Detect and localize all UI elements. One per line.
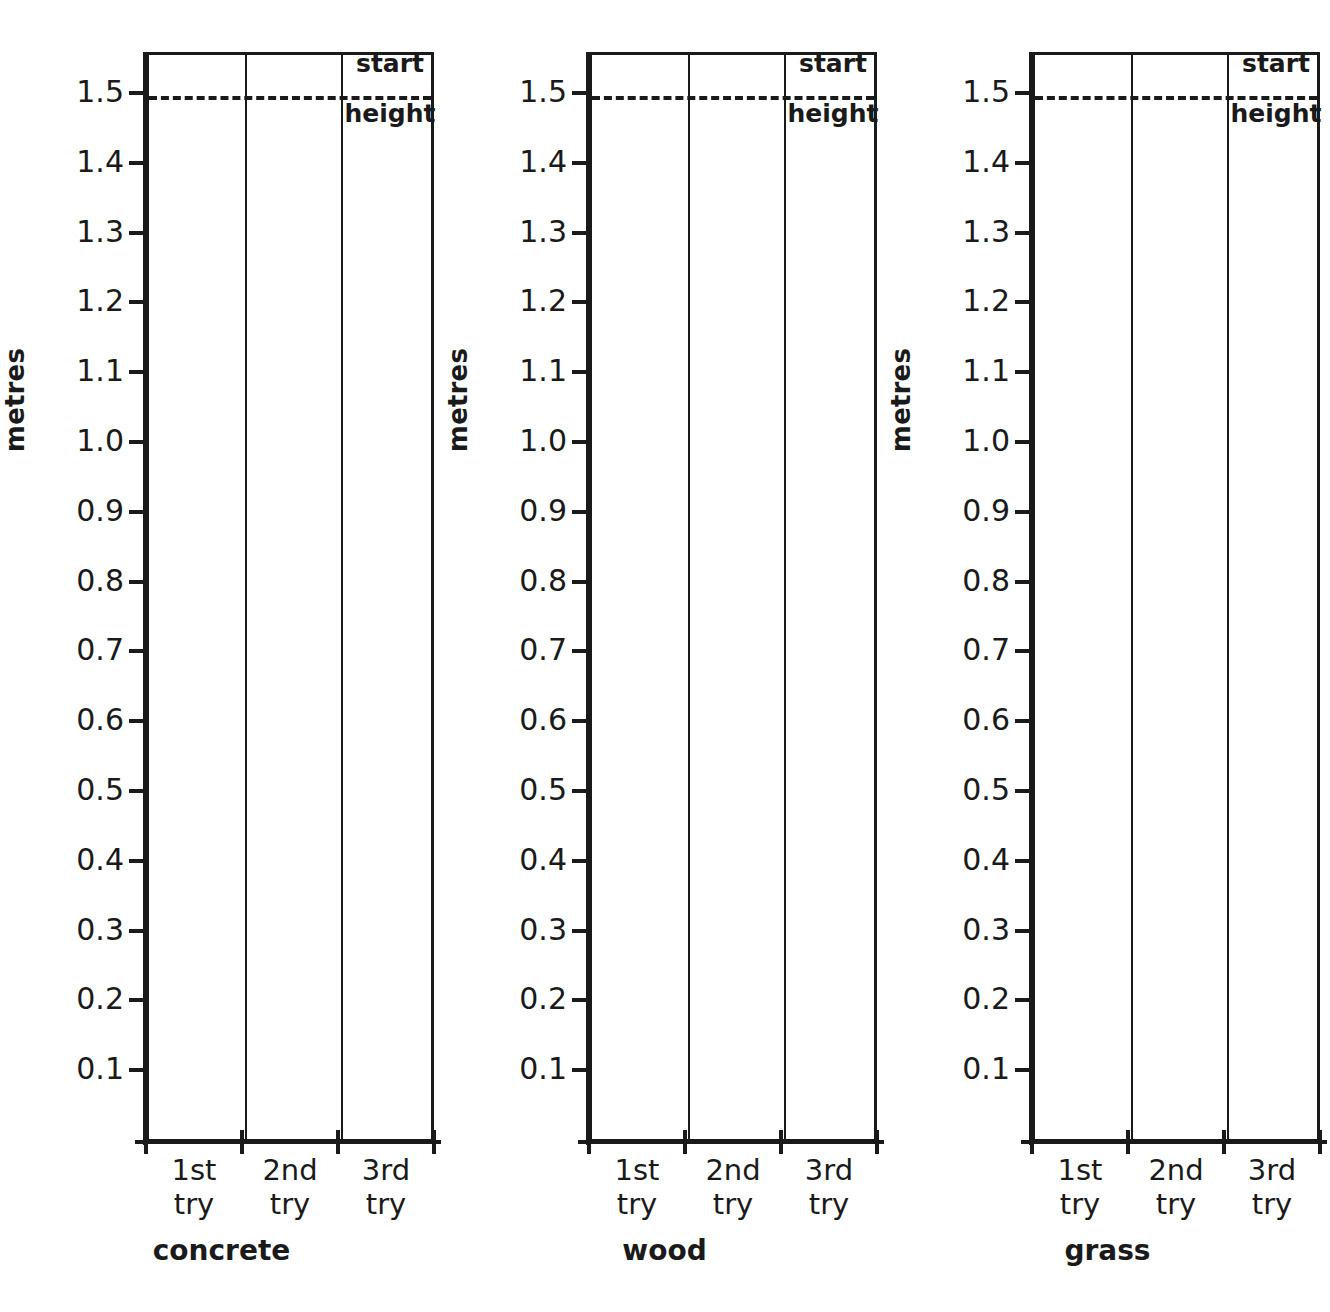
start-height-label-bottom: height <box>343 101 437 127</box>
plot-area[interactable]: startheight <box>146 52 434 1142</box>
column-divider <box>784 55 786 1139</box>
x-axis-tick <box>779 1130 783 1154</box>
x-axis-tick <box>432 1130 436 1154</box>
chart-panel-grass: metresstartheight1.51.41.31.21.11.00.90.… <box>886 0 1329 1312</box>
y-axis-tick-label: 0.9 <box>62 496 124 526</box>
plot-area[interactable]: startheight <box>1032 52 1320 1142</box>
x-axis-tick-label: 2ndtry <box>685 1154 781 1221</box>
y-axis-tick <box>572 440 588 444</box>
chart-panel-concrete: metresstartheight1.51.41.31.21.11.00.90.… <box>0 0 443 1312</box>
x-axis-tick-label: 3rdtry <box>781 1154 877 1221</box>
x-axis-tick-label-line1: 3rd <box>338 1154 434 1188</box>
y-axis-tick-label: 1.5 <box>948 77 1010 107</box>
x-axis-tick-label-line2: try <box>1128 1188 1224 1222</box>
y-axis-tick <box>129 231 145 235</box>
y-axis-tick-label: 0.5 <box>948 775 1010 805</box>
y-axis-tick <box>1015 859 1031 863</box>
y-axis-tick <box>572 789 588 793</box>
y-axis-label: metres <box>443 340 473 460</box>
x-axis-tick-label-line1: 2nd <box>1128 1154 1224 1188</box>
chart-panels-container: metresstartheight1.51.41.31.21.11.00.90.… <box>0 0 1330 1312</box>
x-axis-tick-label-line1: 1st <box>1032 1154 1128 1188</box>
x-axis-tick <box>1030 1130 1034 1154</box>
y-axis-tick <box>1015 929 1031 933</box>
y-axis-tick <box>129 1068 145 1072</box>
y-axis-tick-label: 1.2 <box>948 286 1010 316</box>
y-axis-tick-label: 0.8 <box>62 566 124 596</box>
y-axis-tick-label: 1.2 <box>505 286 567 316</box>
y-axis-tick-label: 1.0 <box>948 426 1010 456</box>
y-axis-tick <box>1015 510 1031 514</box>
y-axis-line <box>1029 52 1033 1145</box>
y-axis-tick <box>1015 440 1031 444</box>
y-axis-tick-label: 0.1 <box>505 1054 567 1084</box>
y-axis-tick-label: 0.9 <box>948 496 1010 526</box>
x-axis-tick-label-line2: try <box>1032 1188 1128 1222</box>
start-height-label-top: start <box>1229 51 1323 77</box>
y-axis-tick-label: 0.4 <box>948 845 1010 875</box>
y-axis-tick <box>1015 231 1031 235</box>
y-axis-tick <box>572 649 588 653</box>
y-axis-tick-label: 1.5 <box>505 77 567 107</box>
y-axis-tick <box>572 231 588 235</box>
y-axis-tick <box>1015 649 1031 653</box>
y-axis-line <box>143 52 147 1145</box>
y-axis-tick-label: 0.2 <box>505 984 567 1014</box>
y-axis-tick-label: 1.1 <box>62 356 124 386</box>
y-axis-tick-label: 0.6 <box>948 705 1010 735</box>
x-axis-tick <box>144 1130 148 1154</box>
x-axis-tick <box>683 1130 687 1154</box>
start-height-label-top: start <box>343 51 437 77</box>
x-axis-tick-label-line2: try <box>685 1188 781 1222</box>
y-axis-tick <box>129 719 145 723</box>
y-axis-tick <box>572 510 588 514</box>
x-axis-tick <box>1222 1130 1226 1154</box>
y-axis-label: metres <box>886 340 916 460</box>
y-axis-tick <box>1015 580 1031 584</box>
y-axis-tick <box>1015 161 1031 165</box>
y-axis-tick <box>129 649 145 653</box>
y-axis-tick-label: 0.8 <box>505 566 567 596</box>
y-axis-tick-label: 0.2 <box>62 984 124 1014</box>
y-axis-tick <box>129 580 145 584</box>
x-axis-tick <box>875 1130 879 1154</box>
y-axis-tick <box>129 161 145 165</box>
y-axis-tick <box>572 719 588 723</box>
y-axis-tick-label: 1.3 <box>62 217 124 247</box>
x-axis-tick-label: 3rdtry <box>338 1154 434 1221</box>
y-axis-tick <box>129 789 145 793</box>
y-axis-tick <box>1015 998 1031 1002</box>
x-axis-line <box>578 1140 884 1144</box>
x-axis-tick-label-line1: 1st <box>589 1154 685 1188</box>
column-divider <box>1227 55 1229 1139</box>
x-axis-tick <box>587 1130 591 1154</box>
x-axis-tick-label-line2: try <box>146 1188 242 1222</box>
y-axis-tick-label: 0.9 <box>505 496 567 526</box>
y-axis-tick <box>129 510 145 514</box>
panel-title: wood <box>443 1234 886 1267</box>
y-axis-tick <box>572 859 588 863</box>
y-axis-tick-label: 1.4 <box>505 147 567 177</box>
y-axis-tick-label: 0.4 <box>505 845 567 875</box>
y-axis-tick <box>572 91 588 95</box>
y-axis-tick-label: 0.3 <box>948 915 1010 945</box>
y-axis-tick-label: 0.2 <box>948 984 1010 1014</box>
y-axis-tick <box>1015 370 1031 374</box>
y-axis-tick <box>572 370 588 374</box>
plot-area[interactable]: startheight <box>589 52 877 1142</box>
y-axis-tick <box>572 161 588 165</box>
x-axis-tick <box>240 1130 244 1154</box>
y-axis-tick <box>572 580 588 584</box>
panel-title: grass <box>886 1234 1329 1267</box>
x-axis-line <box>135 1140 441 1144</box>
x-axis-tick-label: 2ndtry <box>1128 1154 1224 1221</box>
y-axis-tick-label: 0.5 <box>505 775 567 805</box>
column-divider <box>245 55 247 1139</box>
x-axis-line <box>1021 1140 1327 1144</box>
y-axis-tick <box>572 929 588 933</box>
y-axis-tick <box>572 1068 588 1072</box>
y-axis-tick-label: 1.2 <box>62 286 124 316</box>
y-axis-tick <box>572 998 588 1002</box>
y-axis-tick-label: 1.3 <box>505 217 567 247</box>
x-axis-tick-label-line2: try <box>589 1188 685 1222</box>
